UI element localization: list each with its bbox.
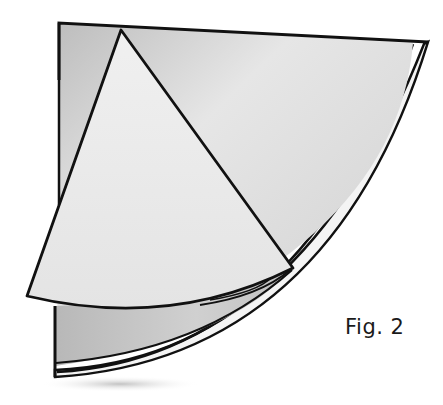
paper-shadow bbox=[40, 376, 200, 392]
figure-caption: Fig. 2 bbox=[345, 315, 404, 339]
folded-paper-illustration bbox=[0, 0, 443, 405]
